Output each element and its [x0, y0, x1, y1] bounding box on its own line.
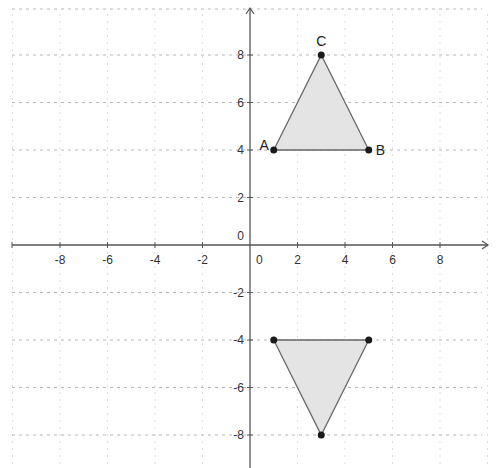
vertex-point — [365, 337, 372, 344]
vertex-label-c: C — [316, 33, 326, 49]
triangle-reflection — [274, 340, 369, 435]
y-tick-label: -2 — [233, 286, 244, 300]
triangle-abc — [274, 55, 369, 150]
x-tick-label: -6 — [102, 253, 113, 267]
coordinate-plane: ABC-8-6-4-224688642-2-4-6-800 — [0, 0, 499, 468]
x-tick-label: 8 — [437, 253, 444, 267]
y-tick-label: 6 — [237, 96, 244, 110]
y-tick-label: 2 — [237, 191, 244, 205]
y-tick-label: -6 — [233, 381, 244, 395]
y-tick-label: 8 — [237, 48, 244, 62]
x-tick-label: 6 — [389, 253, 396, 267]
vertex-label-b: B — [376, 142, 385, 158]
x-tick-label: 2 — [294, 253, 301, 267]
y-tick-label: -4 — [233, 333, 244, 347]
x-origin-label: 0 — [256, 253, 263, 267]
vertex-point-b — [365, 147, 372, 154]
x-tick-label: 4 — [342, 253, 349, 267]
vertex-point-c — [318, 52, 325, 59]
vertex-point — [270, 337, 277, 344]
vertex-point — [318, 432, 325, 439]
x-tick-label: -2 — [197, 253, 208, 267]
vertex-label-a: A — [259, 137, 269, 153]
y-tick-label: -8 — [233, 428, 244, 442]
vertex-point-a — [270, 147, 277, 154]
axes — [12, 8, 488, 468]
y-origin-label: 0 — [237, 229, 244, 243]
plot-canvas: ABC-8-6-4-224688642-2-4-6-800 — [0, 0, 499, 468]
x-tick-label: -4 — [150, 253, 161, 267]
y-tick-label: 4 — [237, 143, 244, 157]
x-tick-label: -8 — [55, 253, 66, 267]
labels: ABC-8-6-4-224688642-2-4-6-800 — [55, 33, 444, 442]
